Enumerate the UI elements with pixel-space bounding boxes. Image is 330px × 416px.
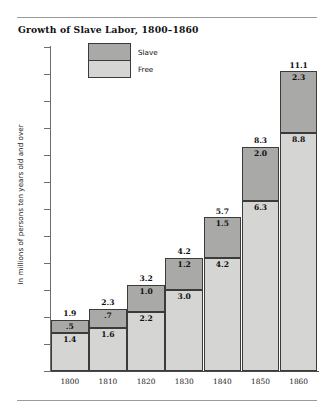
- legend-label-slave: Slave: [138, 49, 158, 56]
- y-axis-tick: [44, 74, 51, 75]
- y-axis-tick: [44, 317, 51, 318]
- legend-swatch-slave: [88, 43, 131, 61]
- y-axis-tick: [44, 236, 51, 237]
- legend-label-free: Free: [138, 66, 153, 73]
- y-axis-tick: [44, 290, 51, 291]
- y-axis-ticks: 0123456789101112: [0, 0, 51, 416]
- y-axis-tick: [44, 209, 51, 210]
- y-axis-tick: [44, 101, 51, 102]
- x-axis-tick-label: 1860: [268, 378, 330, 385]
- y-axis-tick: [44, 371, 51, 372]
- chart-legend: Slave Free: [88, 43, 131, 79]
- y-axis-tick: [44, 47, 51, 48]
- y-axis-tick: [44, 182, 51, 183]
- y-axis-tick: [44, 128, 51, 129]
- y-axis-tick: [44, 155, 51, 156]
- y-axis-title: In millions of persons ten years old and…: [16, 90, 25, 320]
- chart-figure: Growth of Slave Labor, 1800–1860 0123456…: [0, 0, 330, 416]
- y-axis-tick: [44, 263, 51, 264]
- legend-swatch-free: [88, 60, 131, 78]
- y-axis-tick: [44, 344, 51, 345]
